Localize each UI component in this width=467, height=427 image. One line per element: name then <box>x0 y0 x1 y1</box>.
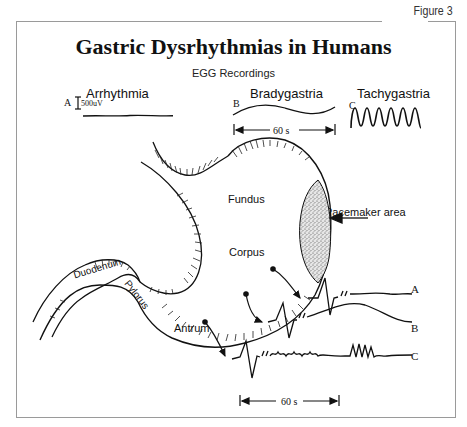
stomach-diagram <box>0 0 467 427</box>
stomach-outline <box>40 138 331 347</box>
pacemaker-arrow <box>330 213 368 223</box>
trace-a <box>308 278 412 315</box>
pacemaker-area <box>300 180 331 283</box>
trace-b <box>268 303 412 338</box>
electrode-leads <box>203 267 300 356</box>
trace-c <box>232 341 412 378</box>
bradygastria-trace <box>233 105 335 115</box>
tachygastria-trace <box>351 108 421 128</box>
time-scale-top <box>234 124 335 135</box>
time-scale-bottom <box>240 395 339 406</box>
arrhythmia-trace <box>83 115 173 116</box>
esophagus <box>141 142 228 293</box>
amplitude-scale-bar <box>75 97 81 109</box>
